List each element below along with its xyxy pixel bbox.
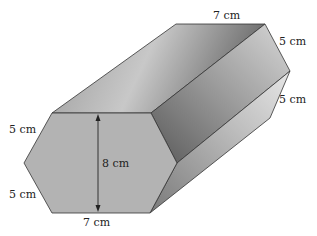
front-hexagon-face [24, 113, 177, 213]
label-front-bottom-edge: 7 cm [83, 217, 110, 228]
label-height: 8 cm [102, 158, 129, 169]
label-back-upper-right-edge: 5 cm [279, 36, 306, 47]
label-front-lower-left-edge: 5 cm [9, 189, 36, 200]
label-back-top-edge: 7 cm [213, 10, 240, 21]
label-front-upper-left-edge: 5 cm [9, 124, 36, 135]
label-back-lower-right-edge: 5 cm [279, 94, 306, 105]
prism-diagram [0, 0, 317, 236]
